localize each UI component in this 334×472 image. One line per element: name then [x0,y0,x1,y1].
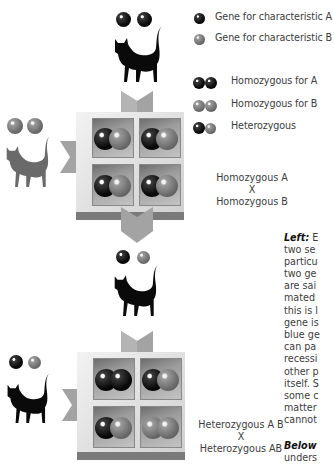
legend-gene-a-label: Gene for characteristic A [215,11,332,22]
cross1-left-cat-icon [3,132,55,192]
cross2-left-gene-2 [28,356,41,369]
cross1-punnett-square [76,112,184,220]
cross1-cell-4 [139,164,181,206]
cross1-cell-1 [92,118,134,158]
cross1-label-x: X [214,184,290,196]
cross1-cell-3 [92,164,134,206]
homozygous-b-icon-1 [193,100,205,112]
caption-left-line: itself. S [284,378,319,390]
cross2-label-line1: Heterozygous A B [198,419,284,431]
legend-gene-b-label: Gene for characteristic B [215,32,332,43]
caption-below-line: unders [284,452,317,464]
caption-left-line: recessi [284,353,317,365]
cross1-cell-2 [139,118,181,158]
cross2-cell-4 [140,406,182,448]
homozygous-a-icon-2 [205,77,217,89]
cross2-label-line2: Heterozygous AB [198,443,284,455]
caption-left-line: cannot [284,414,317,426]
gene-a-icon [194,13,205,24]
caption-left-line: can pa [284,341,316,353]
cross2-top-cat-icon [111,262,163,320]
heterozygous-icon-1 [193,122,205,134]
legend-homozygous-b-label: Homozygous for B [231,98,317,109]
caption-left-line: are sai [284,280,316,292]
caption-left-line: two ge [284,268,317,280]
caption-left-line: blue ge [284,329,320,341]
cross2-cell-3 [93,406,135,448]
caption-below-heading: Below [284,440,317,451]
legend-heterozygous-label: Heterozygous [231,120,296,131]
homozygous-a-icon-1 [193,77,205,89]
caption-left-line: some c [284,390,318,402]
cross1-output-arrow-icon [121,207,153,243]
cross2-punnett-square [77,352,185,462]
homozygous-b-icon-2 [205,100,217,112]
cross1-label-line2: Homozygous B [214,196,290,208]
caption-left-line: other p [284,366,319,378]
cross1-label: Homozygous A X Homozygous B [214,172,290,208]
gene-b-icon [194,34,205,45]
heterozygous-icon-2 [205,123,216,134]
cross1-label-line1: Homozygous A [214,172,290,184]
cross2-cell-2 [140,358,182,400]
cross1-top-cat-icon [111,24,167,86]
caption-left-line: gene is [284,317,319,329]
caption-left-line: this is l [284,305,318,317]
caption-left-heading-line: Left:E [284,232,318,244]
caption-left-line: particu [284,256,318,268]
legend-homozygous-a-label: Homozygous for A [231,75,317,86]
cross2-cell-1 [93,358,135,400]
caption-left-heading: Left: [284,232,309,243]
caption-left-line: mated [284,292,315,304]
caption-left-line: two se [284,244,315,256]
caption-below-heading-line: Below [284,440,317,452]
cross2-label-x: X [198,431,284,443]
caption-left-line: matter [284,402,317,414]
cross2-left-cat-icon [4,370,54,428]
cross2-left-gene-1 [9,355,23,369]
cross2-label: Heterozygous A B X Heterozygous AB [198,419,284,455]
